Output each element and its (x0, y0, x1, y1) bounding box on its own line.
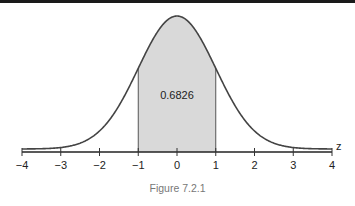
x-tick-label: 2 (251, 159, 257, 171)
x-tick-label: 3 (290, 159, 296, 171)
figure-caption: Figure 7.2.1 (0, 182, 355, 194)
x-tick-label: 1 (213, 159, 219, 171)
x-tick-label: −3 (54, 159, 67, 171)
x-axis-label: z (336, 140, 342, 152)
area-annotation: 0.6826 (160, 89, 194, 101)
x-tick-label: 4 (329, 159, 335, 171)
x-tick-label: −1 (132, 159, 145, 171)
x-tick-label: −2 (93, 159, 106, 171)
x-tick-label: 0 (174, 159, 180, 171)
x-tick-label: −4 (16, 159, 29, 171)
normal-curve-chart: −4−3−2−101234 z 0.6826 (0, 0, 355, 206)
shaded-area (138, 16, 216, 152)
